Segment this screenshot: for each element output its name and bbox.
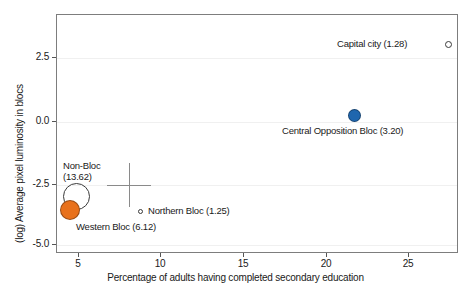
ytick-mark-2 [52, 184, 56, 185]
datapoint-label-non-bloc-line2: (13.62) [63, 171, 92, 182]
xtick-label-1: 10 [140, 258, 180, 269]
gridline--5.0 [57, 245, 457, 246]
plot-area: Capital city (1.28) Central Opposition B… [56, 14, 458, 253]
gridline-0.0 [57, 122, 457, 123]
xtick-label-2: 15 [223, 258, 263, 269]
datapoint-label-non-bloc-line1: Non-Bloc [63, 160, 100, 171]
reference-crosshair-horizontal [107, 185, 151, 186]
xtick-label-0: 5 [58, 258, 98, 269]
datapoint-northern-bloc[interactable] [138, 209, 143, 214]
ytick-mark-3 [52, 244, 56, 245]
xtick-mark-2 [243, 253, 244, 257]
datapoint-capital-city[interactable] [445, 41, 452, 48]
x-axis-title: Percentage of adults having completed se… [0, 272, 471, 283]
datapoint-western-bloc[interactable] [60, 200, 80, 220]
datapoint-label-northern-bloc: Northern Bloc (1.25) [148, 205, 230, 216]
gridline-2.5 [57, 58, 457, 59]
datapoint-label-central-opposition-bloc: Central Opposition Bloc (3.20) [282, 125, 403, 136]
xtick-label-3: 20 [306, 258, 346, 269]
scatter-plot-figure: Capital city (1.28) Central Opposition B… [0, 0, 471, 294]
xtick-label-4: 25 [388, 258, 428, 269]
xtick-mark-1 [160, 253, 161, 257]
ytick-mark-0 [52, 57, 56, 58]
xtick-mark-4 [408, 253, 409, 257]
ytick-mark-1 [52, 121, 56, 122]
xtick-mark-3 [326, 253, 327, 257]
datapoint-central-opposition-bloc[interactable] [348, 109, 361, 122]
datapoint-label-capital-city: Capital city (1.28) [337, 38, 407, 49]
ytick-label-0: 2.5 [12, 51, 49, 62]
xtick-mark-0 [78, 253, 79, 257]
y-axis-title: (log) Average pixel luminosity in blocs [14, 84, 25, 243]
datapoint-label-western-bloc: Western Bloc (6.12) [76, 221, 156, 232]
